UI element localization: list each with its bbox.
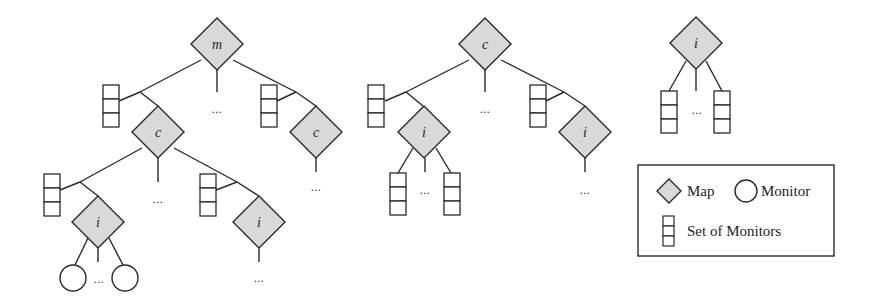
monitor-set [444, 173, 460, 215]
ellipsis: ... [254, 271, 265, 285]
ellipsis: ... [153, 192, 164, 206]
map-node-i-right: i [559, 106, 611, 158]
circle-icon [735, 180, 757, 202]
ellipsis: ... [311, 180, 322, 194]
monitor-set [661, 91, 677, 133]
node-label: c [313, 125, 320, 140]
monitor-circle-icon [112, 265, 138, 291]
legend: Map Monitor Set of Monitors [638, 165, 834, 256]
map-node-i-root: i [670, 17, 722, 69]
map-node-c-root: c [459, 18, 511, 70]
diagram-canvas: m ... c c ... ... i i ... ... [0, 0, 871, 298]
node-label: i [422, 125, 426, 140]
node-label: i [96, 215, 100, 230]
tree-1: m ... c c ... ... i i ... ... [44, 18, 342, 291]
ellipsis: ... [94, 272, 105, 286]
tree-2: c ... i i ... ... [368, 18, 611, 215]
stacked-boxes-icon [663, 216, 674, 246]
node-label: c [155, 125, 162, 140]
node-label: i [583, 125, 587, 140]
monitor-set [368, 85, 384, 127]
legend-monitor-label: Monitor [761, 183, 810, 199]
ellipsis: ... [212, 102, 223, 116]
legend-set-label: Set of Monitors [687, 223, 781, 239]
ellipsis: ... [580, 183, 591, 197]
monitor-set [200, 174, 216, 216]
ellipsis: ... [692, 103, 703, 117]
monitor-circle-icon [60, 265, 86, 291]
map-node-i-left: i [398, 106, 450, 158]
map-node-m: m [191, 18, 243, 70]
node-label: i [694, 36, 698, 51]
map-node-c-right: c [290, 106, 342, 158]
node-label: c [482, 37, 489, 52]
map-node-i-left: i [72, 196, 124, 248]
monitor-set [261, 85, 277, 127]
map-node-i-right: i [233, 196, 285, 248]
ellipsis: ... [480, 102, 491, 116]
node-label: m [212, 37, 222, 52]
ellipsis: ... [420, 183, 431, 197]
monitor-set [390, 173, 406, 215]
monitor-set [44, 174, 60, 216]
hierarchy-diagram: m ... c c ... ... i i ... ... [0, 0, 871, 298]
node-label: i [257, 215, 261, 230]
monitor-set [103, 85, 119, 127]
monitor-set [714, 91, 730, 133]
map-node-c-left: c [132, 106, 184, 158]
legend-map-label: Map [687, 183, 715, 199]
monitor-set [530, 85, 546, 127]
